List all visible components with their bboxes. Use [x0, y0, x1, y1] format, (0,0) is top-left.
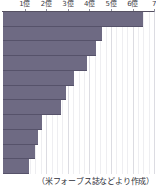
- bar-8: [3, 130, 38, 145]
- bar-2: [3, 41, 96, 56]
- bar-row: [3, 145, 155, 160]
- axis-tick-label-5: 6億: [127, 0, 138, 9]
- bar-row: [3, 41, 155, 56]
- bar-7: [3, 115, 42, 130]
- bar-row: [3, 56, 155, 71]
- bar-row: [3, 12, 155, 27]
- chart-plot-area: [3, 12, 155, 174]
- bar-3: [3, 56, 87, 71]
- bar-6: [3, 100, 61, 115]
- axis-tick-label-0: 1億: [19, 0, 30, 9]
- axis-tick-label-3: 4億: [84, 0, 95, 9]
- bar-0: [3, 12, 143, 27]
- bar-10: [3, 159, 29, 174]
- axis-tick-label-1: 2億: [41, 0, 52, 9]
- bar-9: [3, 145, 35, 160]
- bar-row: [3, 115, 155, 130]
- bar-row: [3, 100, 155, 115]
- bar-row: [3, 159, 155, 174]
- bar-row: [3, 130, 155, 145]
- axis-tick-label-2: 3億: [62, 0, 73, 9]
- bar-row: [3, 86, 155, 101]
- bar-row: [3, 71, 155, 86]
- axis-tick-label-6: 7: [152, 0, 156, 9]
- axis-tick-label-4: 5億: [106, 0, 117, 9]
- bar-1: [3, 27, 102, 42]
- bar-row: [3, 27, 155, 42]
- bar-5: [3, 86, 66, 101]
- bar-4: [3, 71, 74, 86]
- bar-chart-figure: 1億2億3億4億5億6億7 （米フォーブス誌などより作成）: [0, 0, 156, 192]
- source-caption: （米フォーブス誌などより作成）: [0, 176, 154, 187]
